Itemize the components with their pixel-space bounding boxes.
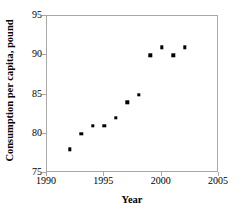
y-axis-title-text: Consumption per capita, pound — [4, 19, 15, 161]
data-point — [148, 54, 151, 57]
y-tick-label: 75 — [18, 167, 42, 177]
y-tick-label: 80 — [18, 128, 42, 138]
data-point — [114, 116, 117, 119]
y-tick-label: 95 — [18, 10, 42, 20]
data-point — [68, 148, 71, 151]
y-tick-label: 90 — [18, 49, 42, 59]
x-tick-label: 1990 — [26, 176, 66, 186]
x-tick-mark — [46, 172, 47, 176]
data-point — [160, 46, 163, 49]
x-tick-mark — [161, 172, 162, 176]
data-point — [80, 132, 83, 135]
data-point — [126, 101, 129, 104]
y-axis-title: Consumption per capita, pound — [0, 0, 18, 180]
data-point — [137, 93, 140, 96]
scatter-chart: Consumption per capita, pound 7580859095… — [0, 0, 244, 218]
x-tick-label: 2005 — [198, 176, 238, 186]
x-tick-mark — [103, 172, 104, 176]
x-tick-label: 2000 — [141, 176, 181, 186]
y-tick-label: 85 — [18, 89, 42, 99]
data-point — [91, 124, 94, 127]
x-tick-mark — [218, 172, 219, 176]
plot-area — [46, 15, 218, 172]
x-axis-title: Year — [46, 194, 218, 205]
data-point — [183, 46, 186, 49]
data-point — [103, 124, 106, 127]
x-tick-label: 1995 — [83, 176, 123, 186]
y-tick-mark — [42, 172, 46, 173]
data-point — [171, 54, 174, 57]
